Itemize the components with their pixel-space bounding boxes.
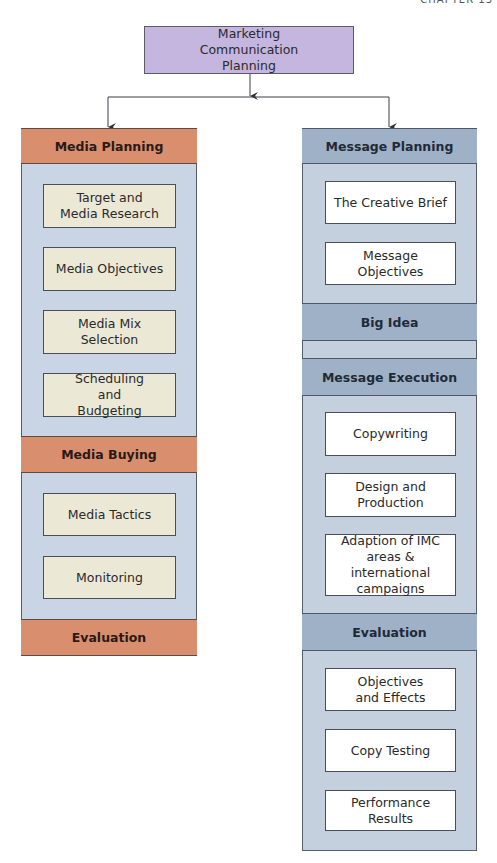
step-label: Copywriting <box>353 426 428 442</box>
step-adaption-of-imc-areas: Adaption of IMC areas & international ca… <box>325 534 456 596</box>
step-media-mix-selection: Media Mix Selection <box>43 310 176 354</box>
section-header-label: Message Execution <box>322 370 457 385</box>
section-header-media-evaluation: Evaluation <box>21 619 197 656</box>
step-scheduling-and-budgeting: Scheduling and Budgeting <box>43 373 176 417</box>
step-label: Adaption of IMC areas & international ca… <box>330 533 451 597</box>
section-header-label: Evaluation <box>352 625 427 640</box>
step-label: Performance Results <box>328 795 453 827</box>
step-monitoring: Monitoring <box>43 556 176 599</box>
step-label: Monitoring <box>76 570 143 586</box>
step-message-objectives: Message Objectives <box>325 242 456 285</box>
step-label: The Creative Brief <box>334 195 447 211</box>
step-the-creative-brief: The Creative Brief <box>325 181 456 224</box>
step-label: Media Objectives <box>56 261 163 277</box>
page-running-head: CHAPTER 13 <box>420 0 493 5</box>
step-label: Message Objectives <box>332 248 449 280</box>
step-objectives-and-effects: Objectives and Effects <box>325 668 456 711</box>
step-media-tactics: Media Tactics <box>43 493 176 536</box>
step-copywriting: Copywriting <box>325 412 456 456</box>
section-header-label: Message Planning <box>326 139 454 154</box>
step-label: Objectives and Effects <box>348 674 433 706</box>
section-header-big-idea: Big Idea <box>302 303 477 341</box>
step-label: Scheduling and Budgeting <box>64 371 155 419</box>
section-header-message-planning: Message Planning <box>302 128 477 164</box>
step-label: Target and Media Research <box>58 190 161 222</box>
step-performance-results: Performance Results <box>325 790 456 831</box>
section-header-media-planning: Media Planning <box>21 128 197 164</box>
step-target-and-media-research: Target and Media Research <box>43 184 176 228</box>
step-label: Design and Production <box>348 479 433 511</box>
step-label: Copy Testing <box>351 743 431 759</box>
step-label: Media Mix Selection <box>50 316 169 348</box>
step-design-and-production: Design and Production <box>325 473 456 517</box>
section-header-label: Evaluation <box>72 630 147 645</box>
section-header-label: Media Planning <box>55 139 164 154</box>
section-header-message-evaluation: Evaluation <box>302 613 477 651</box>
section-header-label: Big Idea <box>361 315 419 330</box>
root-node-marketing-communication-planning: Marketing Communication Planning <box>144 26 354 74</box>
section-header-label: Media Buying <box>61 447 157 462</box>
step-copy-testing: Copy Testing <box>325 729 456 772</box>
step-label: Media Tactics <box>68 507 151 523</box>
step-media-objectives: Media Objectives <box>43 247 176 291</box>
section-header-media-buying: Media Buying <box>21 436 197 473</box>
root-node-label: Marketing Communication Planning <box>185 26 313 74</box>
section-header-message-execution: Message Execution <box>302 358 477 396</box>
